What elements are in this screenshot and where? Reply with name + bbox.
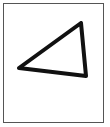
triangle-icon [0, 0, 110, 127]
